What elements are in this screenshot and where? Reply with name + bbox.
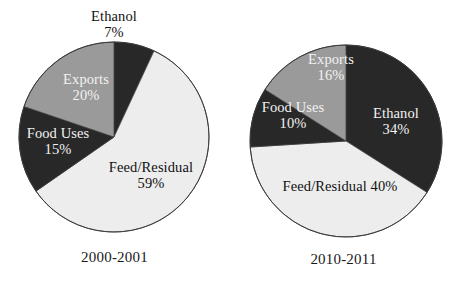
slice-label-ethanol-right-name: Ethanol [353, 105, 439, 121]
slice-label-feed-residual-right-name: Feed/Residual [283, 178, 367, 194]
pie-caption-left: 2000-2001 [0, 249, 229, 266]
slice-label-ethanol-left: Ethanol 7% [59, 8, 169, 40]
slice-label-feed-residual-right-pct: 40% [371, 178, 398, 194]
slice-label-feed-residual-right: Feed/Residual 40% [250, 178, 430, 194]
pie-right-svg [229, 0, 458, 289]
slice-label-exports-left-name: Exports [36, 71, 136, 87]
slice-label-food-uses-right: Food Uses 10% [243, 99, 343, 131]
slice-label-exports-right-name: Exports [286, 51, 376, 67]
pie-chart-figure: Ethanol 7% Exports 20% Food Uses 15% Fee… [0, 0, 458, 289]
slice-label-ethanol-right-pct: 34% [353, 121, 439, 137]
slice-label-feed-residual-left-pct: 59% [96, 175, 206, 191]
slice-label-exports-left: Exports 20% [36, 71, 136, 103]
slice-label-food-uses-left-name: Food Uses [8, 125, 108, 141]
slice-label-food-uses-left-pct: 15% [8, 141, 108, 157]
slice-label-feed-residual-left-name: Feed/Residual [96, 159, 206, 175]
pie-caption-right: 2010-2011 [229, 251, 458, 268]
pie-chart-2000-2001: Ethanol 7% Exports 20% Food Uses 15% Fee… [0, 0, 229, 289]
slice-label-feed-residual-left: Feed/Residual 59% [96, 159, 206, 191]
slice-label-ethanol-right: Ethanol 34% [353, 105, 439, 137]
slice-label-food-uses-right-pct: 10% [243, 115, 343, 131]
slice-label-ethanol-left-name: Ethanol [59, 8, 169, 24]
slice-label-exports-left-pct: 20% [36, 87, 136, 103]
slice-label-exports-right-pct: 16% [286, 67, 376, 83]
slice-label-exports-right: Exports 16% [286, 51, 376, 83]
pie-chart-2010-2011: Exports 16% Food Uses 10% Ethanol 34% Fe… [229, 0, 458, 289]
slice-label-food-uses-right-name: Food Uses [243, 99, 343, 115]
slice-label-ethanol-left-pct: 7% [59, 24, 169, 40]
slice-label-food-uses-left: Food Uses 15% [8, 125, 108, 157]
